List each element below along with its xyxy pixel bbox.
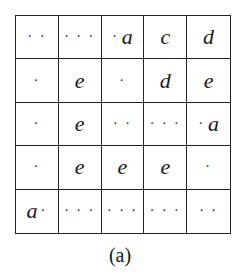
grid-cell-r3-c4: · — [187, 146, 230, 189]
grid-cell-r0-c0: · · — [16, 16, 59, 59]
grid-cell-r2-c2: · · — [102, 103, 145, 146]
cell-dots: · — [119, 74, 126, 88]
grid-cell-r4-c3: · · · — [144, 190, 187, 233]
cell-dots: · — [34, 74, 41, 88]
cell-dots: · · — [199, 204, 218, 218]
grid-cell-r3-c1: e — [59, 146, 102, 189]
cell-letter: e — [75, 156, 85, 178]
cell-dots: · — [34, 160, 41, 174]
grid-cell-r1-c3: d — [144, 59, 187, 102]
cell-dots: · · · — [64, 204, 95, 218]
grid-cell-r1-c4: e — [187, 59, 230, 102]
grid-cell-r1-c1: e — [59, 59, 102, 102]
grid-cell-r0-c2: ·a — [102, 16, 145, 59]
figure-caption: (a) — [0, 244, 240, 267]
grid-cell-r2-c0: · — [16, 103, 59, 146]
cell-dots: · · · — [150, 117, 181, 131]
cell-letter: c — [160, 26, 170, 48]
grid-cell-r2-c4: ·a — [187, 103, 230, 146]
cell-dots: · — [205, 160, 212, 174]
grid-cell-r0-c1: · · · — [59, 16, 102, 59]
cell-letter: e — [204, 70, 214, 92]
cell-letter: d — [203, 26, 214, 48]
cell-letter: d — [160, 70, 171, 92]
grid-cell-r3-c2: e — [102, 146, 145, 189]
cell-dots: · — [112, 30, 119, 44]
cell-dots: · — [34, 117, 41, 131]
grid-cell-r1-c0: · — [16, 59, 59, 102]
grid-cell-r2-c3: · · · — [144, 103, 187, 146]
cell-dots-after: · — [41, 204, 48, 218]
grid-cell-r3-c0: · — [16, 146, 59, 189]
cell-letter: a — [208, 113, 219, 135]
cell-dots: · — [198, 117, 205, 131]
tiling-grid: · · · · · ·a c d · e · d e · e · · · · ·… — [15, 15, 231, 234]
cell-letter: e — [75, 70, 85, 92]
cell-letter: a — [122, 26, 133, 48]
cell-dots: · · · — [150, 204, 181, 218]
grid-cell-r4-c4: · · — [187, 190, 230, 233]
grid-cell-r0-c4: d — [187, 16, 230, 59]
cell-dots: · · — [27, 30, 46, 44]
cell-letter: e — [118, 156, 128, 178]
cell-dots: · · — [113, 117, 132, 131]
cell-dots: · · · — [64, 30, 95, 44]
cell-letter: e — [160, 156, 170, 178]
grid-cell-r4-c1: · · · — [59, 190, 102, 233]
cell-letter: a — [27, 200, 38, 222]
cell-letter: e — [75, 113, 85, 135]
grid-cell-r3-c3: e — [144, 146, 187, 189]
cell-dots: · · · — [107, 204, 138, 218]
grid-cell-r0-c3: c — [144, 16, 187, 59]
grid-cell-r2-c1: e — [59, 103, 102, 146]
grid-cell-r4-c2: · · · — [102, 190, 145, 233]
grid-cell-r4-c0: a· — [16, 190, 59, 233]
grid-cell-r1-c2: · — [102, 59, 145, 102]
